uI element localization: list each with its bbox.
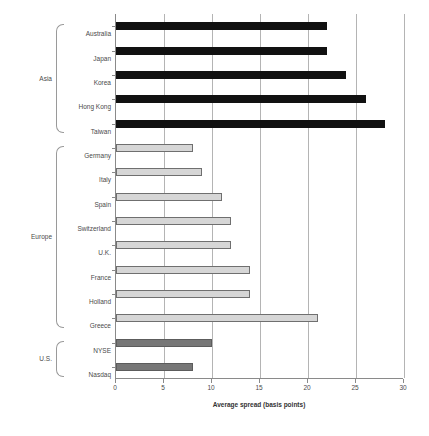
x-tick-mark-0 [115,379,116,383]
category-tick [112,367,116,368]
bar-italy [116,168,202,176]
bar-nyse [116,339,212,347]
bar-row [116,241,403,249]
gridline-30 [404,14,405,378]
category-label-switzerland: Switzerland [77,225,111,233]
bar-row [116,47,403,55]
bar-row [116,22,403,30]
bar-holland [116,290,250,298]
category-label-france: France [91,274,111,282]
category-label-korea: Korea [94,79,111,87]
bar-taiwan [116,120,385,128]
category-label-japan: Japan [93,55,111,63]
category-label-italy: Italy [99,176,111,184]
bar-row [116,290,403,298]
x-tick-label-5: 5 [161,384,165,392]
bar-row [116,193,403,201]
bar-row [116,266,403,274]
bar-australia [116,22,327,30]
bar-korea [116,71,346,79]
x-tick-label-20: 20 [303,384,310,392]
x-axis-title: Average spread (basis points) [115,401,403,408]
bar-row [116,217,403,225]
group-bracket-europe [56,146,64,328]
bar-greece [116,314,318,322]
group-label-europe: Europe [12,233,52,241]
category-tick [112,124,116,125]
group-label-u-s-: U.S. [12,355,52,363]
category-tick [112,318,116,319]
category-label-germany: Germany [84,152,111,160]
bar-spain [116,193,222,201]
group-label-asia: Asia [12,75,52,83]
plot-area [115,14,403,379]
category-tick [112,270,116,271]
bar-japan [116,47,327,55]
bar-switzerland [116,217,231,225]
bar-row [116,314,403,322]
category-tick [112,99,116,100]
x-tick-label-15: 15 [255,384,262,392]
x-tick-mark-20 [307,379,308,383]
category-tick [112,75,116,76]
x-tick-label-25: 25 [351,384,358,392]
x-tick-label-30: 30 [399,384,406,392]
category-label-australia: Australia [86,30,111,38]
bar-row [116,71,403,79]
x-tick-label-0: 0 [113,384,117,392]
group-bracket-u-s- [56,341,64,377]
category-tick [112,172,116,173]
category-label-spain: Spain [94,201,111,209]
x-tick-mark-15 [259,379,260,383]
category-tick [112,294,116,295]
group-bracket-asia [56,24,64,133]
category-label-nyse: NYSE [93,347,111,355]
x-tick-mark-10 [211,379,212,383]
bar-row [116,363,403,371]
bar-row [116,144,403,152]
category-tick [112,197,116,198]
category-label-holland: Holland [89,298,111,306]
category-label-hong-kong: Hong Kong [78,103,111,111]
category-tick [112,26,116,27]
bar-row [116,95,403,103]
bar-u-k- [116,241,231,249]
category-tick [112,245,116,246]
bar-germany [116,144,193,152]
x-tick-mark-30 [403,379,404,383]
category-tick [112,343,116,344]
x-tick-label-10: 10 [207,384,214,392]
category-label-nasdaq: Nasdaq [89,371,111,379]
x-tick-mark-5 [163,379,164,383]
bar-row [116,120,403,128]
bar-france [116,266,250,274]
category-label-greece: Greece [90,322,111,330]
category-tick [112,148,116,149]
category-label-taiwan: Taiwan [91,128,111,136]
bar-chart: AustraliaJapanKoreaHong KongTaiwanGerman… [0,0,429,436]
bar-hong-kong [116,95,366,103]
bar-nasdaq [116,363,193,371]
category-tick [112,221,116,222]
bar-row [116,339,403,347]
x-tick-mark-25 [355,379,356,383]
category-label-u-k-: U.K. [98,249,111,257]
category-tick [112,51,116,52]
bar-row [116,168,403,176]
